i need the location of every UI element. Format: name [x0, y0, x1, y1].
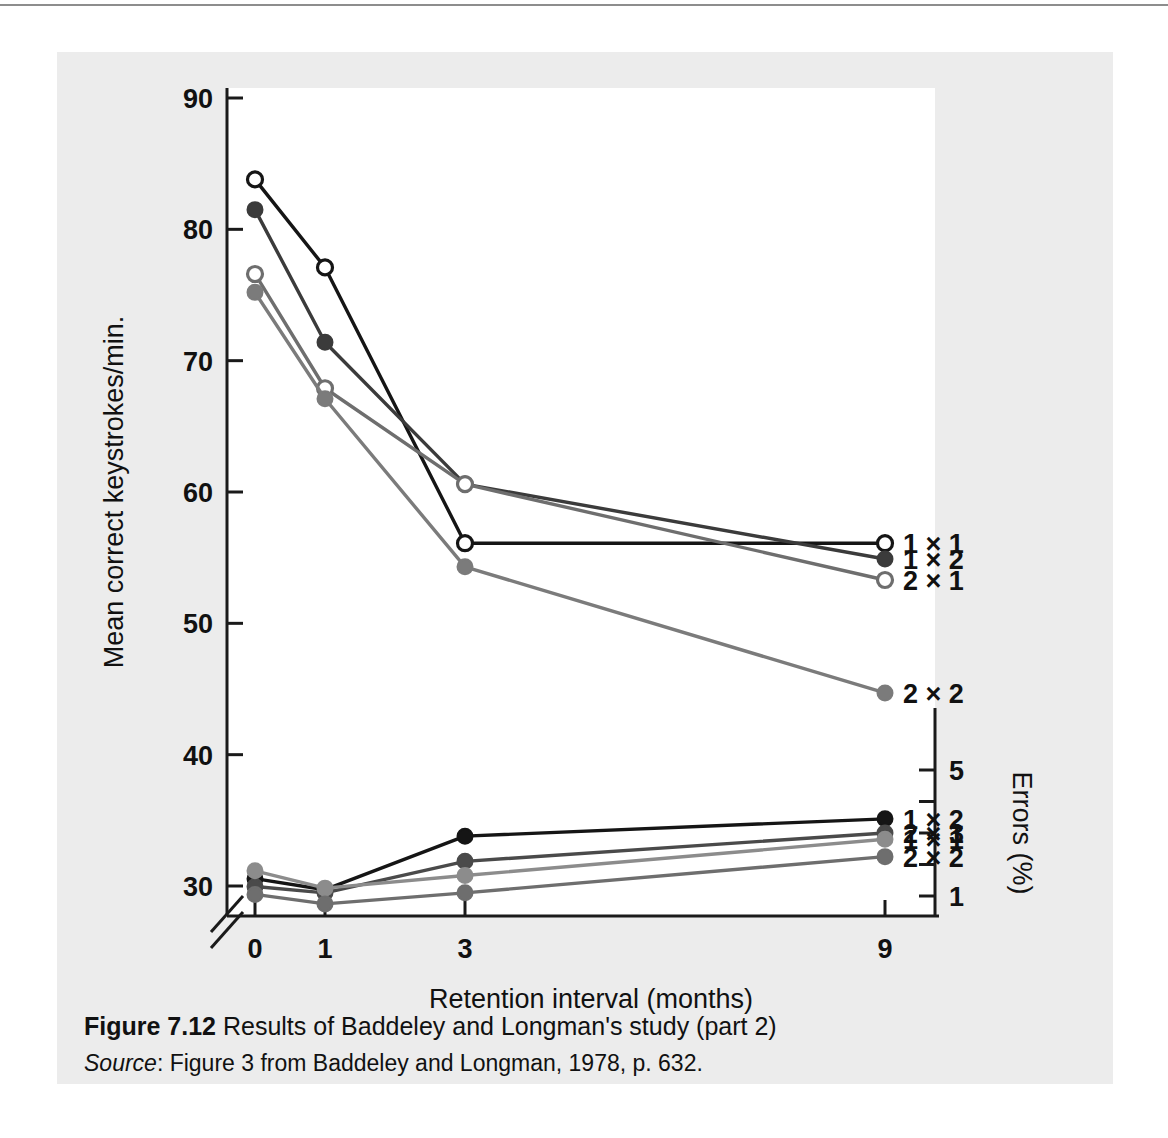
series-line-keystrokes-3 [255, 292, 885, 693]
y-axis-tick-label: 80 [183, 215, 213, 245]
page-canvas: 304050607080905310139Retention interval … [0, 0, 1168, 1138]
data-point-keystrokes-0-1 [318, 260, 333, 275]
data-point-keystrokes-1-0 [248, 202, 263, 217]
y-axis-tick-label: 30 [183, 872, 213, 902]
data-point-keystrokes-2-2 [458, 477, 473, 492]
y-axis-tick-label: 60 [183, 478, 213, 508]
y-axis-title: Mean correct keystrokes/min. [99, 316, 129, 669]
data-point-keystrokes-3-2 [458, 559, 473, 574]
data-point-errors-3-3 [878, 849, 893, 864]
page-top-rule [0, 4, 1168, 6]
data-point-errors-3-1 [318, 896, 333, 911]
series-line-keystrokes-0 [255, 179, 885, 543]
x-axis-tick-label: 1 [317, 934, 332, 964]
data-point-keystrokes-0-0 [248, 172, 263, 187]
y-axis-tick-label: 90 [183, 84, 213, 114]
data-point-keystrokes-1-3 [878, 551, 893, 566]
data-point-keystrokes-3-0 [248, 285, 263, 300]
data-point-keystrokes-1-1 [318, 335, 333, 350]
figure-chart: 304050607080905310139Retention interval … [57, 52, 1113, 1084]
data-point-keystrokes-2-3 [878, 572, 893, 587]
data-point-errors-1-2 [458, 854, 473, 869]
data-point-keystrokes-2-0 [248, 266, 263, 281]
caption-source-text: : Figure 3 from Baddeley and Longman, 19… [157, 1050, 703, 1076]
figure-caption-block: Figure 7.12 Results of Baddeley and Long… [84, 1010, 1084, 1080]
data-point-errors-2-0 [248, 863, 263, 878]
series-label-keystrokes-3: 2 × 2 [903, 679, 964, 709]
y2-axis-tick-label: 1 [949, 882, 964, 912]
data-point-errors-3-2 [458, 885, 473, 900]
x-axis-tick-label: 9 [877, 934, 892, 964]
y-axis-tick-label: 50 [183, 609, 213, 639]
caption-figure-number: Figure 7.12 [84, 1012, 216, 1040]
data-point-keystrokes-0-2 [458, 536, 473, 551]
caption-source-label: Source [84, 1050, 157, 1076]
series-label-errors-3: 2 × 2 [903, 843, 964, 873]
y-axis-tick-label: 70 [183, 347, 213, 377]
data-point-errors-3-0 [248, 887, 263, 902]
y2-axis-tick-label: 5 [949, 756, 964, 786]
series-label-keystrokes-2: 2 × 1 [903, 566, 964, 596]
data-point-errors-2-3 [878, 832, 893, 847]
y2-axis-title: Errors (%) [1007, 772, 1037, 895]
caption-title-line: Figure 7.12 Results of Baddeley and Long… [84, 1010, 1084, 1044]
y-axis-tick-label: 40 [183, 741, 213, 771]
data-point-keystrokes-3-3 [878, 685, 893, 700]
data-point-keystrokes-3-1 [318, 391, 333, 406]
data-point-errors-2-2 [458, 868, 473, 883]
data-point-errors-0-3 [878, 811, 893, 826]
data-point-keystrokes-0-3 [878, 536, 893, 551]
caption-title-text: Results of Baddeley and Longman's study … [223, 1012, 777, 1040]
data-point-errors-0-2 [458, 829, 473, 844]
x-axis-tick-label: 0 [247, 934, 262, 964]
data-point-errors-2-1 [318, 881, 333, 896]
x-axis-tick-label: 3 [457, 934, 472, 964]
caption-source-line: Source: Figure 3 from Baddeley and Longm… [84, 1047, 1084, 1080]
